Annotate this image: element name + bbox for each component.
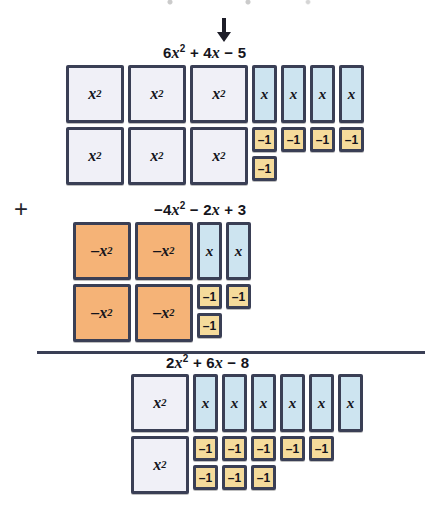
tile-label: x bbox=[348, 87, 356, 102]
tile-label: –x bbox=[153, 305, 169, 321]
tile-label: –1 bbox=[228, 472, 241, 484]
tile-label: –1 bbox=[203, 320, 216, 332]
algebra-tile-neg-x-squared[interactable]: –x2 bbox=[73, 222, 131, 280]
algebra-tile-x-squared[interactable]: x2 bbox=[128, 65, 186, 123]
algebra-tile-neg-one[interactable]: –1 bbox=[252, 156, 277, 181]
expression-variable: x bbox=[172, 201, 180, 218]
tile-label: x bbox=[261, 87, 269, 102]
algebra-tile-worksheet: + 6x2 + 4x − 5 −4x2 − 2x + 3 2x2 + 6x − … bbox=[0, 0, 437, 515]
expression-coefficient: 4 bbox=[203, 44, 212, 61]
algebra-tile-x[interactable]: x bbox=[310, 65, 335, 123]
algebra-tile-x-squared[interactable]: x2 bbox=[190, 127, 248, 185]
algebra-tile-x-squared[interactable]: x2 bbox=[131, 436, 189, 494]
expression-variable: x bbox=[215, 354, 223, 371]
expression-coefficient: 8 bbox=[241, 354, 250, 371]
algebra-tile-neg-one[interactable]: –1 bbox=[197, 284, 222, 309]
expression-coefficient: 6 bbox=[206, 354, 215, 371]
expression-operator: − bbox=[220, 44, 238, 61]
tile-label: –1 bbox=[315, 443, 328, 455]
expression-coefficient: 2 bbox=[203, 201, 212, 218]
expression-operator: + bbox=[189, 354, 207, 371]
algebra-tile-x-squared[interactable]: x2 bbox=[131, 374, 189, 432]
tile-label: –1 bbox=[199, 443, 212, 455]
tile-label: x bbox=[318, 396, 326, 411]
expression-coefficient: 3 bbox=[238, 201, 247, 218]
algebra-tile-neg-x-squared[interactable]: –x2 bbox=[135, 222, 193, 280]
tile-label: x bbox=[319, 87, 327, 102]
expression-operator: − bbox=[154, 201, 163, 218]
algebra-tile-neg-one[interactable]: –1 bbox=[281, 127, 306, 152]
algebra-tile-neg-one[interactable]: –1 bbox=[309, 436, 334, 461]
tile-label: x bbox=[202, 396, 210, 411]
algebra-tile-x[interactable]: x bbox=[197, 222, 222, 280]
expression-label-addend-2: −4x2 − 2x + 3 bbox=[154, 201, 246, 219]
algebra-tile-x-squared[interactable]: x2 bbox=[190, 65, 248, 123]
expression-operator: − bbox=[223, 354, 241, 371]
tile-label: –1 bbox=[345, 134, 358, 146]
expression-coefficient: 5 bbox=[238, 44, 247, 61]
expression-label-sum: 2x2 + 6x − 8 bbox=[166, 354, 249, 372]
expression-coefficient: 4 bbox=[163, 201, 172, 218]
tile-label: –x bbox=[153, 243, 169, 259]
algebra-tile-x-squared[interactable]: x2 bbox=[66, 127, 124, 185]
algebra-tile-neg-one[interactable]: –1 bbox=[339, 127, 364, 152]
algebra-tile-x[interactable]: x bbox=[193, 374, 218, 432]
algebra-tile-x[interactable]: x bbox=[338, 374, 363, 432]
tile-label: x bbox=[290, 87, 298, 102]
tile-label: x bbox=[206, 244, 214, 259]
algebra-tile-neg-one[interactable]: –1 bbox=[251, 465, 276, 490]
expression-variable: x bbox=[175, 354, 183, 371]
algebra-tile-x[interactable]: x bbox=[280, 374, 305, 432]
expression-label-addend-1: 6x2 + 4x − 5 bbox=[163, 44, 246, 62]
expression-coefficient: 2 bbox=[166, 354, 175, 371]
tile-label: –1 bbox=[257, 443, 270, 455]
algebra-tile-neg-one[interactable]: –1 bbox=[226, 284, 251, 309]
tile-label: –1 bbox=[199, 472, 212, 484]
algebra-tile-x-squared[interactable]: x2 bbox=[66, 65, 124, 123]
algebra-tile-neg-one[interactable]: –1 bbox=[193, 465, 218, 490]
algebra-tile-neg-one[interactable]: –1 bbox=[197, 313, 222, 338]
expression-operator: − bbox=[185, 201, 203, 218]
algebra-tile-x[interactable]: x bbox=[222, 374, 247, 432]
algebra-tile-neg-one[interactable]: –1 bbox=[222, 436, 247, 461]
algebra-tile-neg-one[interactable]: –1 bbox=[222, 465, 247, 490]
scan-artifact bbox=[130, 0, 330, 6]
plus-operator: + bbox=[10, 198, 32, 220]
tile-label: x bbox=[347, 396, 355, 411]
expression-operator: + bbox=[220, 201, 238, 218]
algebra-tile-x[interactable]: x bbox=[252, 65, 277, 123]
tile-label: –1 bbox=[232, 291, 245, 303]
expression-coefficient: 6 bbox=[163, 44, 172, 61]
tile-label: –1 bbox=[258, 134, 271, 146]
algebra-tile-neg-one[interactable]: –1 bbox=[193, 436, 218, 461]
tile-label: –x bbox=[91, 243, 107, 259]
algebra-tile-neg-x-squared[interactable]: –x2 bbox=[73, 284, 131, 342]
down-arrow-icon bbox=[215, 18, 233, 44]
algebra-tile-x[interactable]: x bbox=[309, 374, 334, 432]
tile-label: –1 bbox=[228, 443, 241, 455]
algebra-tile-neg-x-squared[interactable]: –x2 bbox=[135, 284, 193, 342]
tile-label: x bbox=[260, 396, 268, 411]
expression-variable: x bbox=[172, 44, 180, 61]
tile-label: –1 bbox=[287, 134, 300, 146]
tile-label: –1 bbox=[258, 163, 271, 175]
tile-label: –1 bbox=[257, 472, 270, 484]
expression-operator: + bbox=[186, 44, 204, 61]
expression-variable: x bbox=[212, 44, 220, 61]
tile-label: x bbox=[235, 244, 243, 259]
tile-label: x bbox=[289, 396, 297, 411]
tile-label: –1 bbox=[286, 443, 299, 455]
algebra-tile-x[interactable]: x bbox=[251, 374, 276, 432]
algebra-tile-x[interactable]: x bbox=[226, 222, 251, 280]
algebra-tile-x[interactable]: x bbox=[339, 65, 364, 123]
algebra-tile-x-squared[interactable]: x2 bbox=[128, 127, 186, 185]
algebra-tile-neg-one[interactable]: –1 bbox=[252, 127, 277, 152]
expression-variable: x bbox=[212, 201, 220, 218]
algebra-tile-neg-one[interactable]: –1 bbox=[251, 436, 276, 461]
algebra-tile-x[interactable]: x bbox=[281, 65, 306, 123]
tile-label: –x bbox=[91, 305, 107, 321]
tile-label: –1 bbox=[316, 134, 329, 146]
tile-label: –1 bbox=[203, 291, 216, 303]
algebra-tile-neg-one[interactable]: –1 bbox=[310, 127, 335, 152]
algebra-tile-neg-one[interactable]: –1 bbox=[280, 436, 305, 461]
